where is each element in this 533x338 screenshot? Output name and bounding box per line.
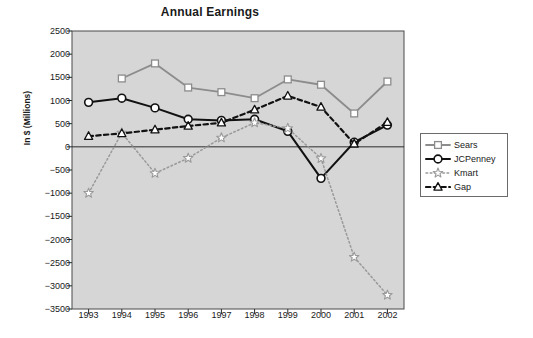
circle-marker	[434, 155, 442, 163]
legend-swatch-triangle-icon	[425, 181, 451, 193]
legend-swatch-square-icon	[425, 139, 451, 151]
y-tick-label: −500	[50, 165, 70, 175]
data-point-marker	[85, 98, 93, 106]
data-point-marker	[152, 60, 159, 67]
y-tick-label: −2000	[45, 235, 70, 245]
data-point-marker	[435, 142, 442, 149]
y-tick-label: 0	[65, 142, 70, 152]
square-marker	[435, 142, 442, 149]
x-tick-label: 2002	[377, 310, 397, 320]
x-tick-label: 1995	[145, 310, 165, 320]
data-point-marker	[433, 168, 443, 177]
square-marker	[384, 78, 391, 85]
y-tick-label: −1500	[45, 211, 70, 221]
data-point-marker	[251, 95, 258, 102]
x-tick-label: 1993	[79, 310, 99, 320]
x-tick-label: 2001	[344, 310, 364, 320]
data-point-marker	[118, 94, 126, 102]
x-tick-label: 1996	[178, 310, 198, 320]
square-marker	[284, 76, 291, 83]
data-point-marker	[318, 81, 325, 88]
x-tick-label: 1999	[278, 310, 298, 320]
data-point-marker	[218, 89, 225, 96]
data-point-marker	[317, 174, 325, 182]
square-marker	[351, 110, 358, 117]
y-tick-label: 1500	[50, 72, 70, 82]
circle-marker	[85, 98, 93, 106]
legend-item-kmart[interactable]: Kmart	[425, 166, 507, 180]
legend-item-jcpenney[interactable]: JCPenney	[425, 152, 507, 166]
legend-label: Gap	[454, 182, 471, 192]
y-tick-label: 2000	[50, 49, 70, 59]
data-point-marker	[434, 155, 442, 163]
legend-label: Kmart	[454, 168, 478, 178]
chart-container: Annual Earnings In $ (Millions) 25002000…	[0, 0, 533, 338]
square-marker	[152, 60, 159, 67]
legend-item-sears[interactable]: Sears	[425, 138, 507, 152]
data-point-marker	[284, 76, 291, 83]
legend-item-gap[interactable]: Gap	[425, 180, 507, 194]
x-tick-label: 1997	[211, 310, 231, 320]
x-axis-tick-labels: 1993199419951996199719981999200020012002	[0, 310, 533, 326]
plot-background	[72, 31, 404, 309]
data-point-marker	[384, 78, 391, 85]
circle-marker	[151, 104, 159, 112]
square-marker	[185, 84, 192, 91]
legend-label: JCPenney	[454, 154, 496, 164]
circle-marker	[317, 174, 325, 182]
data-point-marker	[185, 84, 192, 91]
legend-swatch-star-icon	[425, 167, 451, 179]
square-marker	[118, 75, 125, 82]
x-tick-label: 2000	[311, 310, 331, 320]
y-tick-label: 500	[55, 119, 70, 129]
chart-legend: SearsJCPenneyKmartGap	[420, 133, 508, 197]
legend-label: Sears	[454, 140, 478, 150]
data-point-marker	[151, 104, 159, 112]
y-tick-label: −1000	[45, 188, 70, 198]
y-tick-label: −2500	[45, 258, 70, 268]
data-point-marker	[351, 110, 358, 117]
y-tick-label: 1000	[50, 96, 70, 106]
legend-swatch-circle-icon	[425, 153, 451, 165]
data-point-marker	[118, 75, 125, 82]
square-marker	[218, 89, 225, 96]
x-tick-label: 1994	[112, 310, 132, 320]
y-axis-label-wrapper: In $ (Millions)	[8, 60, 22, 280]
square-marker	[318, 81, 325, 88]
circle-marker	[118, 94, 126, 102]
star-marker	[433, 168, 443, 177]
square-marker	[251, 95, 258, 102]
y-axis-tick-labels: 25002000150010005000−500−1000−1500−2000−…	[26, 0, 70, 338]
x-tick-label: 1998	[245, 310, 265, 320]
y-tick-label: −3000	[45, 281, 70, 291]
y-tick-label: 2500	[50, 26, 70, 36]
